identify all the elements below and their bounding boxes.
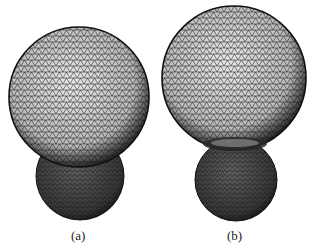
small-sphere-b — [195, 139, 277, 221]
panel-b — [162, 6, 306, 221]
neck-ring-b — [203, 137, 267, 151]
caption-b: (b) — [227, 228, 242, 244]
caption-a: (a) — [71, 228, 85, 244]
large-sphere-a — [9, 27, 149, 167]
mesh-figure — [0, 0, 313, 252]
large-sphere-b — [162, 6, 306, 150]
panel-a — [9, 27, 149, 220]
